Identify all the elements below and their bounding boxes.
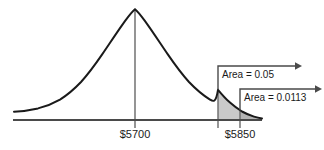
normal-curve	[14, 9, 218, 111]
area-00113-annotation-label: Area = 0.0113	[244, 92, 306, 103]
x-tick-label-mean: $5700	[107, 128, 163, 140]
x-tick-label-5850: $5850	[212, 128, 268, 140]
normal-curve-stroke	[14, 9, 218, 112]
normal-distribution-figure: Area = 0.05 Area = 0.0113 $5700 $5850	[0, 0, 324, 150]
arrowhead-area-00113	[315, 85, 322, 93]
area-005-annotation-label: Area = 0.05	[222, 69, 274, 80]
arrowhead-area-005	[295, 62, 302, 70]
